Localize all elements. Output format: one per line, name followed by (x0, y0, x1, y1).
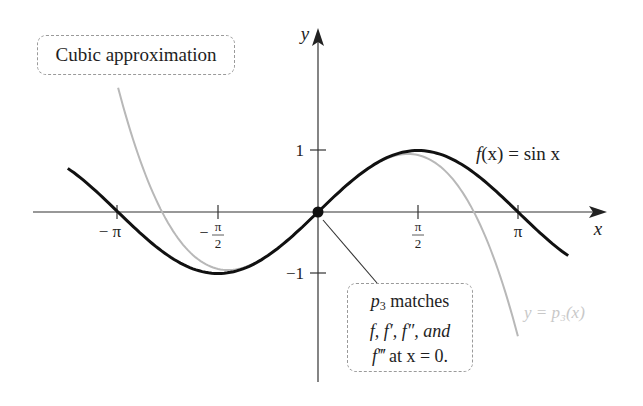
y-axis-label: y (299, 23, 310, 44)
callout-line-2: f, f′, f″, and (348, 319, 472, 344)
svg-text:2: 2 (415, 236, 422, 251)
y-tick-1: 1 (296, 141, 305, 160)
callout-line-1: p3 matches (348, 289, 472, 319)
callout-leader-line (323, 220, 377, 283)
x-tick-pi: π (514, 222, 523, 241)
x-tick-half-pi: π 2 (412, 219, 424, 251)
svg-text:π: π (415, 219, 422, 234)
x-axis-label: x (593, 218, 603, 239)
svg-text:π: π (215, 219, 222, 234)
sine-function-label: f(x) = sin x (476, 143, 561, 165)
p3-function-label: y = p₃(x) (522, 303, 585, 322)
y-tick-neg1: −1 (286, 264, 304, 283)
svg-text:2: 2 (215, 236, 222, 251)
origin-point (313, 207, 324, 218)
x-tick-neg-pi: − π (99, 222, 122, 241)
x-tick-neg-half-pi: − π 2 (199, 219, 224, 251)
callout-line-3: f‴ at x = 0. (348, 344, 472, 369)
svg-text:−: − (199, 224, 208, 241)
p3-matches-callout: p3 matches f, f′, f″, and f‴ at x = 0. (347, 283, 473, 372)
cubic-approximation-callout: Cubic approximation (37, 35, 235, 75)
